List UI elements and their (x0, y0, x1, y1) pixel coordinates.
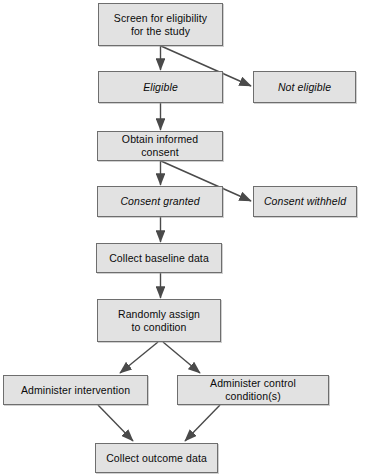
node-intervention[interactable]: Administer intervention (3, 375, 148, 405)
node-eligible[interactable]: Eligible (98, 71, 223, 103)
node-randomize[interactable]: Randomly assign to condition (97, 299, 221, 342)
node-baseline-label: Collect baseline data (105, 252, 213, 265)
node-screen[interactable]: Screen for eligibility for the study (98, 3, 223, 46)
node-screen-label: Screen for eligibility for the study (110, 12, 211, 38)
node-outcome[interactable]: Collect outcome data (95, 443, 218, 473)
node-consent-granted[interactable]: Consent granted (97, 186, 223, 217)
node-randomize-label: Randomly assign to condition (114, 308, 204, 334)
node-consent-withheld-label: Consent withheld (260, 195, 350, 208)
edge-randomize-to-control (163, 342, 200, 373)
node-consent-granted-label: Consent granted (116, 195, 203, 208)
node-obtain-consent[interactable]: Obtain informed consent (97, 131, 223, 161)
node-baseline[interactable]: Collect baseline data (96, 243, 222, 273)
edge-control-to-outcome (185, 405, 220, 441)
node-obtain-consent-label: Obtain informed consent (98, 133, 222, 159)
node-intervention-label: Administer intervention (17, 384, 134, 397)
node-eligible-label: Eligible (139, 81, 182, 94)
node-not-eligible[interactable]: Not eligible (253, 71, 356, 103)
flowchart-canvas: Screen for eligibility for the study Eli… (0, 0, 377, 476)
node-control-label: Administer control condition(s) (178, 377, 328, 403)
node-not-eligible-label: Not eligible (274, 81, 335, 94)
node-control[interactable]: Administer control condition(s) (177, 375, 329, 405)
edge-randomize-to-intervention (120, 342, 158, 373)
node-outcome-label: Collect outcome data (102, 452, 211, 465)
node-consent-withheld[interactable]: Consent withheld (253, 186, 357, 217)
edge-intervention-to-outcome (98, 405, 133, 441)
